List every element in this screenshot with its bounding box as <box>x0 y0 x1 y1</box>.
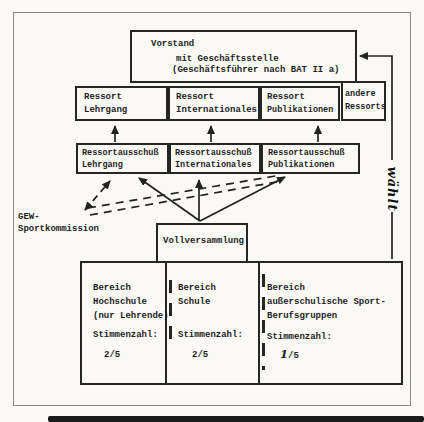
scanned-diagram-page: Vorstand mit Geschäftsstelle (Geschäftsf… <box>0 0 424 422</box>
ausschuss-publikationen-box: Ressortausschuß Publikationen <box>261 143 360 174</box>
ausschuss-internationales-line1: Ressortausschuß <box>175 148 252 158</box>
bereich1-line1: Bereich <box>93 283 131 293</box>
scan-artifact-band <box>48 416 424 422</box>
bereich1-stimmen-denom: /5 <box>109 350 120 360</box>
gew-label-line1: GEW- <box>18 212 40 222</box>
ressort-lehrgang-line1: Ressort <box>84 92 122 102</box>
vorstand-subtitle: mit Geschäftsstelle <box>176 54 279 64</box>
ausschuss-publikationen-line2: Publikationen <box>268 160 334 170</box>
bereich2-line1: Bereich <box>178 283 216 293</box>
bereich-divider-2 <box>258 261 260 385</box>
ausschuss-lehrgang-box: Ressortausschuß Lehrgang <box>76 143 169 174</box>
andere-ressorts-box: andere Ressorts <box>341 81 386 121</box>
andere-ressorts-line1: andere <box>345 89 376 99</box>
vorstand-title: Vorstand <box>151 39 194 49</box>
bereich2-line2: Schule <box>178 297 210 307</box>
bereich3-stimmen-numer-handwritten: 1 <box>280 347 288 361</box>
ressort-publikationen-line1: Ressort <box>267 92 305 102</box>
bereich1-stimmen-label: Stimmenzahl: <box>93 330 158 340</box>
ressort-internationales-line1: Ressort <box>176 92 214 102</box>
vollversammlung-box: Vollversammlung <box>156 223 248 261</box>
bereich2-stimmen-label: Stimmenzahl: <box>178 330 243 340</box>
vorstand-note: (Geschäftsführer nach BAT II a) <box>172 65 339 75</box>
ausschuss-internationales-box: Ressortausschuß Internationales <box>169 143 261 174</box>
ausschuss-internationales-line2: Internationales <box>175 160 252 170</box>
bereich-divider-1 <box>165 261 167 385</box>
bereich3-line3: Berufsgruppen <box>267 311 337 321</box>
vollversammlung-label: Vollversammlung <box>163 236 244 246</box>
bereich3-line2: außerschulische Sport- <box>267 297 386 307</box>
bereich3-line1: Bereich <box>267 283 305 293</box>
vorstand-box: Vorstand mit Geschäftsstelle (Geschäftsf… <box>130 30 357 83</box>
ausschuss-lehrgang-line1: Ressortausschuß <box>82 148 159 158</box>
ressort-publikationen-box: Ressort Publikationen <box>260 86 340 121</box>
andere-ressorts-line2: Ressorts <box>345 102 386 112</box>
ressort-lehrgang-box: Ressort Lehrgang <box>75 86 168 121</box>
ressort-internationales-box: Ressort Internationales <box>168 86 260 121</box>
bereich1-line2: Hochschule <box>93 297 147 307</box>
bereich3-stimmen-value: 1/5 <box>280 349 299 361</box>
bereich2-stimmen-value: 2/5 <box>192 350 208 360</box>
bereich-divider-2-dashed <box>262 274 265 370</box>
ausschuss-lehrgang-line2: Lehrgang <box>82 160 123 170</box>
waehlt-handwriting: wählt <box>385 167 400 205</box>
ressort-publikationen-line2: Publikationen <box>267 105 333 115</box>
bereich-divider-1-dashed <box>169 280 172 348</box>
bereich1-stimmen-value: 2/5 <box>104 350 120 360</box>
bereich1-line3: (nur Lehrende) <box>93 311 169 321</box>
bereiche-box <box>80 261 403 385</box>
ausschuss-publikationen-line1: Ressortausschuß <box>268 148 345 158</box>
ressort-lehrgang-line2: Lehrgang <box>84 105 127 115</box>
bereich2-stimmen-denom: /5 <box>197 350 208 360</box>
ressort-internationales-line2: Internationales <box>176 105 257 115</box>
gew-label-line2: Sportkommission <box>18 224 99 234</box>
bereich3-stimmen-denom: /5 <box>288 351 299 361</box>
bereich3-stimmen-label: Stimmenzahl: <box>267 332 332 342</box>
